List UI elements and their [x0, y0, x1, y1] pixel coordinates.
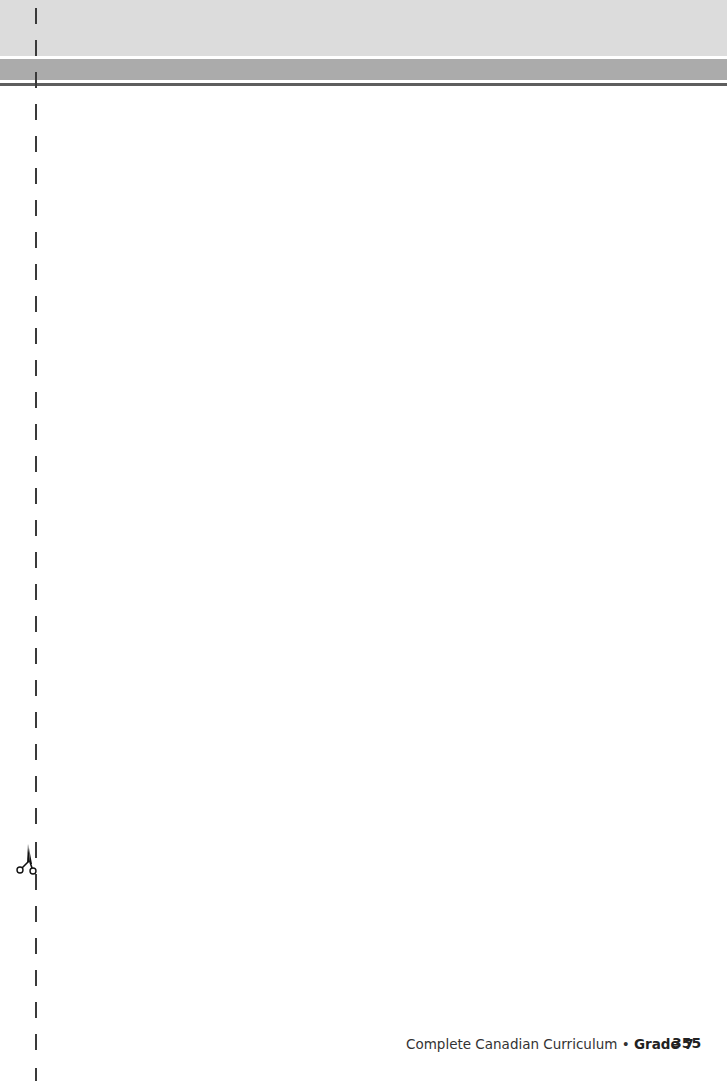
header-mid-band: [0, 59, 727, 80]
cut-dash: [35, 712, 37, 728]
cut-dash: [35, 360, 37, 376]
cut-dash: [35, 520, 37, 536]
cut-dash: [35, 874, 37, 890]
cut-dash: [35, 424, 37, 440]
cut-dash: [35, 328, 37, 344]
cut-dash: [35, 808, 37, 824]
cut-dash: [35, 1002, 37, 1018]
footer-separator: •: [622, 1036, 630, 1052]
cut-dash: [35, 616, 37, 632]
cut-dash: [35, 488, 37, 504]
cut-dash: [35, 392, 37, 408]
header-top-band: [0, 0, 727, 56]
cut-dash: [35, 200, 37, 216]
footer-book-title: Complete Canadian Curriculum: [406, 1036, 617, 1052]
cut-dash: [35, 970, 37, 986]
cut-dash: [35, 906, 37, 922]
cut-dash: [35, 776, 37, 792]
cut-dash: [35, 72, 37, 88]
cut-dash: [35, 1034, 37, 1050]
cut-dash: [35, 136, 37, 152]
cut-dash: [35, 40, 37, 56]
cut-dash: [35, 552, 37, 568]
cut-dash: [35, 168, 37, 184]
cut-dash: [35, 8, 37, 24]
cut-dash: [35, 296, 37, 312]
cut-dash: [35, 264, 37, 280]
cut-dash: [35, 104, 37, 120]
cut-dash: [35, 584, 37, 600]
cut-dash: [35, 456, 37, 472]
header-rule: [0, 83, 727, 86]
footer-book-credit: Complete Canadian Curriculum • Grade 7: [406, 1036, 694, 1052]
scissors-icon: [14, 842, 38, 876]
cut-dash: [35, 938, 37, 954]
cut-dash: [35, 680, 37, 696]
cut-dash: [35, 744, 37, 760]
cut-dash: [35, 648, 37, 664]
cut-dash: [35, 232, 37, 248]
page-number: 355: [672, 1035, 701, 1051]
cut-line: [35, 0, 37, 1081]
cut-dash: [35, 1068, 37, 1081]
